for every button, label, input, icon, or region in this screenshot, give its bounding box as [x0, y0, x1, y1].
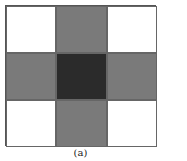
- cell-r0-c1: [56, 6, 107, 53]
- cell-r0-c2: [107, 6, 157, 53]
- cross-grid: [5, 5, 156, 146]
- cell-r0-c0: [6, 6, 56, 53]
- cell-r1-c1: [56, 53, 107, 100]
- figure-caption: (a): [0, 147, 161, 159]
- cell-r1-c2: [107, 53, 157, 100]
- cell-r2-c0: [6, 100, 56, 147]
- cell-r2-c2: [107, 100, 157, 147]
- cell-r2-c1: [56, 100, 107, 147]
- cell-r1-c0: [6, 53, 56, 100]
